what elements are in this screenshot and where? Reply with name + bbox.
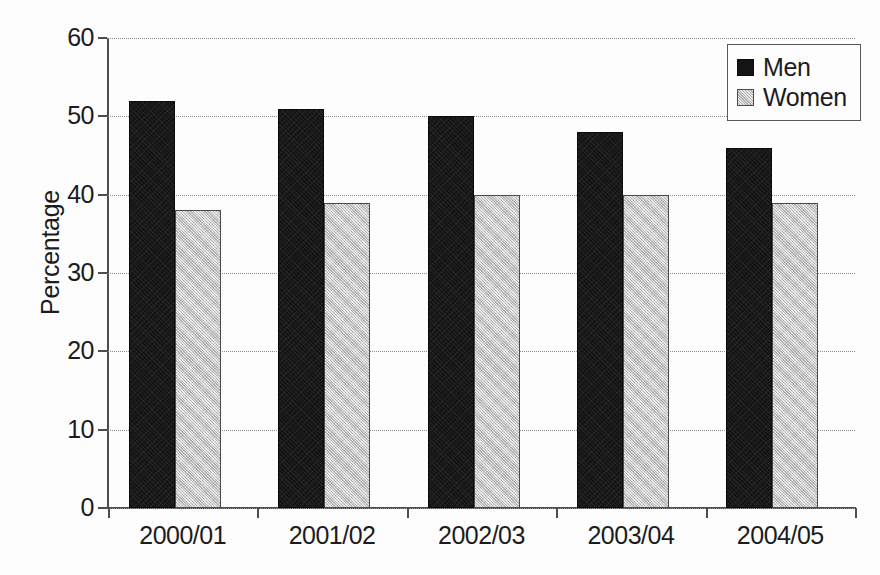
bar-men-2003-04 xyxy=(577,132,623,508)
bar-women-2000-01 xyxy=(175,210,221,508)
y-axis-tick xyxy=(98,350,107,352)
x-axis-tick xyxy=(706,508,708,518)
legend-swatch-men-icon xyxy=(737,59,754,76)
bar-women-2001-02 xyxy=(324,203,370,509)
y-axis-tick xyxy=(98,37,107,39)
y-axis-tick xyxy=(98,272,107,274)
bar-women-2004-05 xyxy=(772,203,818,509)
y-axis-tick-label: 10 xyxy=(38,415,94,444)
x-axis-tick-label: 2000/01 xyxy=(103,521,263,550)
bar-chart: Percentage 0102030405060 MenWomen 2000/0… xyxy=(0,0,880,575)
x-axis-tick xyxy=(855,508,857,518)
legend-swatch-women-icon xyxy=(737,89,754,106)
x-axis-tick xyxy=(108,508,110,518)
bar-men-2004-05 xyxy=(726,148,772,508)
x-axis-tick-label: 2002/03 xyxy=(402,521,562,550)
x-axis-tick-label: 2003/04 xyxy=(551,521,711,550)
y-axis-tick-label: 50 xyxy=(38,101,94,130)
legend-label: Women xyxy=(763,85,847,110)
y-axis-tick-label: 30 xyxy=(38,258,94,287)
y-axis-tick-label: 0 xyxy=(38,493,94,522)
legend-label: Men xyxy=(763,55,810,80)
bar-women-2002-03 xyxy=(474,195,520,508)
x-axis-tick xyxy=(407,508,409,518)
y-axis-tick xyxy=(98,507,107,509)
x-axis-tick xyxy=(257,508,259,518)
y-axis-tick xyxy=(98,429,107,431)
x-axis-tick-label: 2004/05 xyxy=(700,521,860,550)
bar-men-2002-03 xyxy=(428,116,474,508)
bar-women-2003-04 xyxy=(623,195,669,508)
bar-men-2001-02 xyxy=(278,109,324,509)
y-axis-tick xyxy=(98,115,107,117)
y-axis-tick-label: 20 xyxy=(38,336,94,365)
x-axis-tick xyxy=(556,508,558,518)
y-axis-tick xyxy=(98,194,107,196)
legend-item-men: Men xyxy=(737,52,847,82)
legend-item-women: Women xyxy=(737,82,847,112)
gridline xyxy=(108,508,855,509)
legend: MenWomen xyxy=(727,44,861,121)
gridline xyxy=(108,38,855,39)
bar-men-2000-01 xyxy=(129,101,175,508)
y-axis-tick-labels: 0102030405060 xyxy=(30,0,94,575)
y-axis-tick-label: 40 xyxy=(38,180,94,209)
y-axis-tick-label: 60 xyxy=(38,23,94,52)
x-axis-tick-label: 2001/02 xyxy=(252,521,412,550)
